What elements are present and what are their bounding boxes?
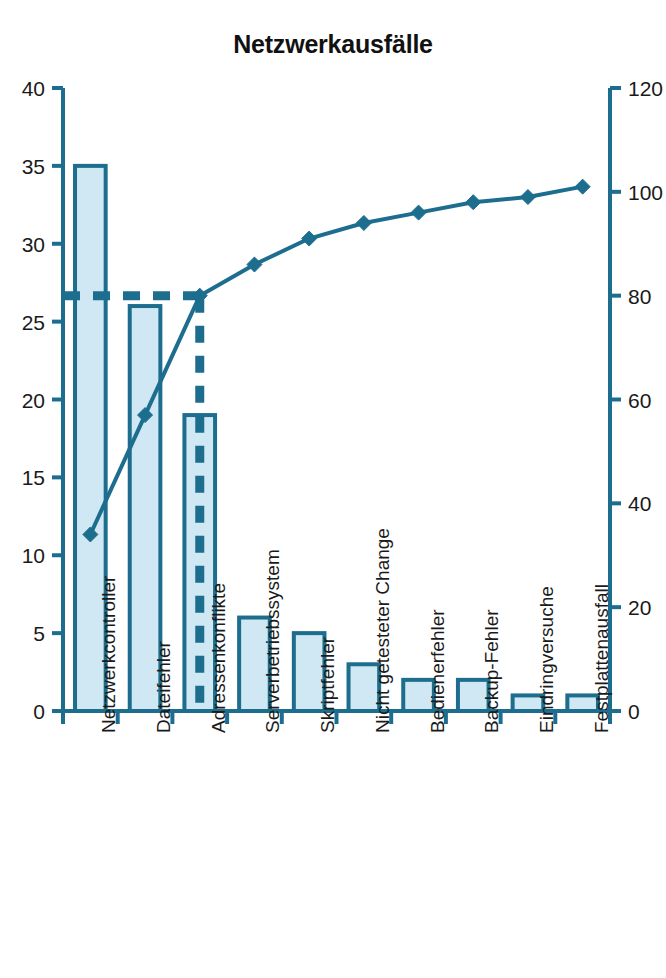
category-label: Nicht getesteter Change — [373, 528, 392, 733]
category-label: Adressenkonflikte — [209, 583, 228, 733]
category-label: Netzwerkcontroller — [99, 576, 118, 733]
category-label: Backup-Fehler — [482, 609, 501, 733]
category-label: Skriptfehler — [318, 637, 337, 733]
category-label: Dateifehler — [154, 641, 173, 733]
category-label: Eindringversuche — [537, 586, 556, 733]
category-label: Bedienerfehler — [428, 609, 447, 733]
pareto-chart: Netzwerkausfälle 0510152025303540 020406… — [0, 0, 666, 978]
category-label: Festplattenausfall — [592, 584, 611, 733]
category-axis-labels: NetzwerkcontrollerDateifehlerAdressenkon… — [0, 0, 666, 978]
category-label: Serverbetriebssystem — [263, 549, 282, 733]
